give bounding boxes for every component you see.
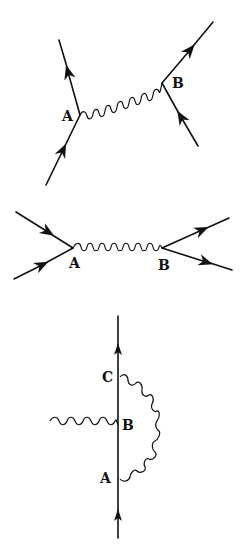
vertex-label-c: C [102, 369, 113, 385]
fermion-line-in-upper [16, 212, 48, 232]
diagram-s-channel: A B [14, 212, 232, 279]
diagram-t-channel: A B [46, 22, 213, 185]
diagram-vertex-correction: C B A [50, 316, 160, 538]
fermion-line-out-upper [162, 230, 202, 248]
fermion-line-in-lower [14, 265, 42, 279]
vertex-label-b: B [122, 417, 134, 433]
external-photon-wavy-line [50, 417, 118, 425]
vertex-label-a: A [99, 470, 112, 486]
vertex-label-b: B [158, 257, 170, 273]
vertex-label-b: B [172, 75, 184, 91]
fermion-line-in-a [46, 150, 63, 185]
fermion-line-in-b [181, 117, 198, 146]
vertex-label-a: A [68, 255, 81, 271]
photon-wavy-line [80, 83, 162, 119]
vertex-label-a: A [61, 108, 74, 124]
photon-wavy-line [73, 243, 162, 251]
feynman-diagrams: A B A B C B A [0, 0, 244, 559]
